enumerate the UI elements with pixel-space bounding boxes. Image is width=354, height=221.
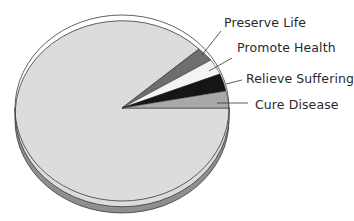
pie-slice-main	[15, 21, 229, 207]
label-cure-disease: Cure Disease	[255, 97, 339, 112]
label-relieve-suffering: Relieve Suffering	[246, 71, 354, 86]
label-promote-health: Promote Health	[237, 40, 336, 55]
label-preserve-life: Preserve Life	[224, 15, 306, 30]
leader-preserve-life	[202, 31, 221, 55]
leader-relieve-suffering	[226, 80, 242, 84]
